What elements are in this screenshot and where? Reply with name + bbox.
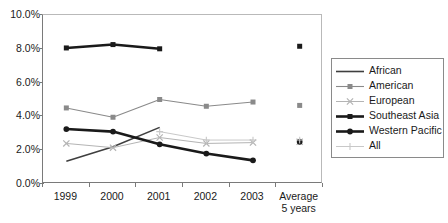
legend-item[interactable]: Southeast Asia xyxy=(335,108,439,123)
series-marker-circle xyxy=(347,129,353,135)
x-tick-mark xyxy=(275,183,276,187)
series-american xyxy=(64,97,302,120)
legend-item-label: African xyxy=(369,65,402,76)
legend-item-label: Southeast Asia xyxy=(369,110,439,121)
legend-item-label: American xyxy=(369,80,413,91)
series-marker-square xyxy=(297,103,302,108)
x-axis: 19992000200120022003Average5 years xyxy=(42,183,323,223)
series-southeast-asia xyxy=(64,42,302,51)
y-tick-label: 8.0% xyxy=(2,43,40,53)
series-marker-circle xyxy=(157,141,163,147)
series-line xyxy=(66,100,253,118)
legend-key-swatch xyxy=(335,64,365,77)
series-marker-plus xyxy=(347,143,354,150)
series-marker-square xyxy=(348,114,353,119)
x-tick-mark xyxy=(135,183,136,187)
legend-key-swatch xyxy=(335,139,365,152)
x-tick-mark xyxy=(89,183,90,187)
y-tick-label: 10.0% xyxy=(2,9,40,19)
series-marker-square xyxy=(157,97,162,102)
legend-key-swatch xyxy=(335,109,365,122)
legend-key-swatch xyxy=(335,124,365,137)
legend-item[interactable]: All xyxy=(335,138,439,153)
legend-item[interactable]: American xyxy=(335,78,439,93)
x-tick-label: Average5 years xyxy=(279,190,318,214)
x-tick-mark xyxy=(322,183,323,187)
x-tick-label: 2001 xyxy=(147,190,170,202)
plot-area xyxy=(42,14,322,183)
series-marker-circle xyxy=(250,157,256,163)
series-marker-square xyxy=(111,115,116,120)
y-axis: 0.0%2.0%4.0%6.0%8.0%10.0% xyxy=(0,14,40,183)
chart-figure: 0.0%2.0%4.0%6.0%8.0%10.0% 19992000200120… xyxy=(0,0,448,223)
series-marker-square xyxy=(64,105,69,110)
x-tick-label: 1999 xyxy=(54,190,77,202)
x-tick-mark xyxy=(182,183,183,187)
series-marker-square xyxy=(297,44,302,49)
series-marker-circle xyxy=(203,151,209,157)
legend-item[interactable]: Western Pacific xyxy=(335,123,439,138)
series-marker-circle xyxy=(110,129,116,135)
legend-item[interactable]: European xyxy=(335,93,439,108)
legend-key-swatch xyxy=(335,79,365,92)
x-tick-label: 2003 xyxy=(240,190,263,202)
series-marker-plus xyxy=(203,137,210,144)
x-tick-label: 2002 xyxy=(194,190,217,202)
series-marker-circle xyxy=(63,126,69,132)
x-tick-mark xyxy=(229,183,230,187)
legend-key-swatch xyxy=(335,94,365,107)
chart-legend: AfricanAmericanEuropeanSoutheast AsiaWes… xyxy=(331,58,444,158)
series-marker-square xyxy=(157,46,162,51)
y-tick-label: 4.0% xyxy=(2,110,40,120)
y-tick-label: 2.0% xyxy=(2,144,40,154)
legend-item-label: European xyxy=(369,95,415,106)
series-marker-square xyxy=(251,100,256,105)
series-marker-square xyxy=(111,42,116,47)
y-tick-label: 6.0% xyxy=(2,77,40,87)
x-tick-label: 2000 xyxy=(100,190,123,202)
x-tick-mark xyxy=(42,183,43,187)
plot-series-svg xyxy=(43,15,323,184)
series-marker-square xyxy=(64,45,69,50)
legend-item-label: All xyxy=(369,140,381,151)
y-tick-label: 0.0% xyxy=(2,178,40,188)
series-marker-square xyxy=(204,104,209,109)
series-western-pacific xyxy=(63,126,302,163)
legend-item-label: Western Pacific xyxy=(369,125,442,136)
legend-item[interactable]: African xyxy=(335,63,439,78)
series-all xyxy=(156,128,303,143)
series-marker-square xyxy=(348,84,353,89)
